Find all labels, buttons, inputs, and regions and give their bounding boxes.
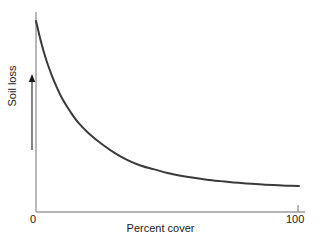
chart-plot-area (0, 0, 321, 241)
y-axis-title: Soil loss (6, 56, 18, 116)
chart-figure: 0 100 Percent cover Soil loss (0, 0, 321, 241)
x-axis-title: Percent cover (0, 222, 321, 234)
data-series-curve (36, 21, 299, 186)
y-axis-arrow-head (29, 74, 35, 82)
